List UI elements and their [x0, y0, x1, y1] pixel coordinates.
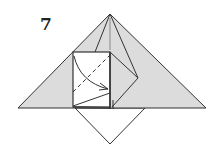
fold-illustration	[0, 0, 222, 155]
lower-diamond	[75, 108, 145, 144]
step-number: 7	[40, 14, 52, 34]
base-edge	[73, 107, 110, 108]
origami-diagram: 7	[0, 0, 222, 155]
